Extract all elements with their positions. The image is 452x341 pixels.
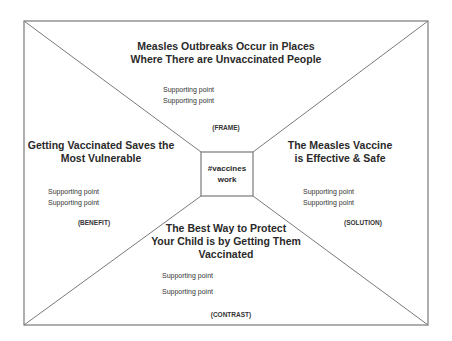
supporting-point: Supporting point: [303, 197, 354, 208]
supporting-point: Supporting point: [48, 197, 99, 208]
title-line: The Best Way to Protect: [146, 222, 306, 235]
center-text: #vaccines work: [205, 163, 249, 185]
top-tag-frame: (FRAME): [196, 124, 256, 131]
right-section-title: The Measles Vaccine is Effective & Safe: [280, 139, 400, 165]
title-line: Your Child is by Getting Them: [146, 235, 306, 248]
bottom-section-title: The Best Way to Protect Your Child is by…: [146, 222, 306, 261]
top-supporting-points: Supporting point Supporting point: [163, 84, 214, 106]
right-tag-solution: (SOLUTION): [328, 219, 398, 226]
supporting-point: Supporting point: [162, 284, 213, 300]
bottom-tag-contrast: (CONTRAST): [196, 311, 266, 318]
title-line: Measles Outbreaks Occur in Places: [96, 40, 356, 53]
supporting-point: Supporting point: [48, 186, 99, 197]
title-line: The Measles Vaccine: [280, 139, 400, 152]
center-label: #vaccines work: [201, 152, 253, 196]
supporting-point: Supporting point: [303, 186, 354, 197]
left-section-title: Getting Vaccinated Saves the Most Vulner…: [26, 139, 176, 165]
title-line: is Effective & Safe: [280, 152, 400, 165]
bottom-supporting-points: Supporting point Supporting point: [162, 268, 213, 300]
supporting-point: Supporting point: [163, 84, 214, 95]
top-section-title: Measles Outbreaks Occur in Places Where …: [96, 40, 356, 66]
supporting-point: Supporting point: [162, 268, 213, 284]
supporting-point: Supporting point: [163, 95, 214, 106]
left-tag-benefit: (BENEFIT): [64, 219, 124, 226]
left-supporting-points: Supporting point Supporting point: [48, 186, 99, 208]
title-line: Where There are Unvaccinated People: [96, 53, 356, 66]
title-line: Getting Vaccinated Saves the: [26, 139, 176, 152]
right-supporting-points: Supporting point Supporting point: [303, 186, 354, 208]
title-line: Vaccinated: [146, 248, 306, 261]
title-line: Most Vulnerable: [26, 152, 176, 165]
